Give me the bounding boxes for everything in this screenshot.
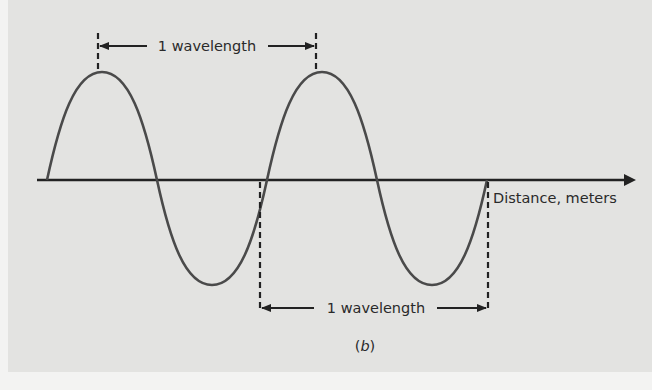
top-wavelength-label: 1 wavelength: [158, 38, 256, 54]
bottom-wavelength-label: 1 wavelength: [327, 300, 425, 316]
axis-arrowhead-icon: [624, 174, 636, 186]
sine-wave: [47, 72, 487, 285]
axis-label: Distance, meters: [493, 190, 617, 206]
figure-caption: (b): [355, 338, 376, 354]
wave-diagram: 1 wavelength 1 wavelength Distance, mete…: [0, 0, 652, 390]
